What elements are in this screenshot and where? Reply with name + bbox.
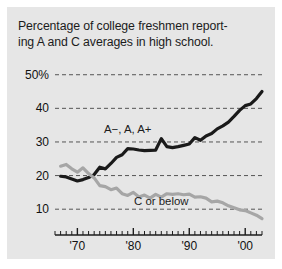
x-axis-tick-label: '80	[116, 239, 150, 253]
x-axis-tick-label: '90	[172, 239, 206, 253]
x-axis-ticks-group	[55, 228, 262, 235]
chart-figure-panel: Percentage of college freshmen report- i…	[7, 7, 275, 259]
y-axis-tick-label: 20	[7, 169, 49, 183]
y-axis-tick-label: 40	[7, 101, 49, 115]
data-series-line	[61, 92, 262, 181]
x-axis-tick-label: '00	[228, 239, 262, 253]
y-axis-tick-label: 10	[7, 202, 49, 216]
series-annotation-label: A−, A, A+	[104, 123, 152, 135]
x-axis-tick-label: '70	[60, 239, 94, 253]
y-axis-tick-label: 50%	[7, 68, 49, 82]
y-axis-tick-label: 30	[7, 135, 49, 149]
data-series-line	[61, 164, 262, 218]
series-annotation-label: C or below	[134, 195, 188, 207]
